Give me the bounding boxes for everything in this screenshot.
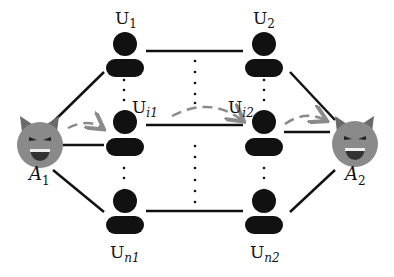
edges <box>53 51 335 212</box>
label-un1: Un1 <box>110 242 140 265</box>
user-icon-u2 <box>245 32 283 77</box>
label-a1: A1 <box>29 163 50 188</box>
edge-u2-a2 <box>290 72 335 120</box>
label-un2: Un2 <box>250 242 280 265</box>
label-ui2: Ui2 <box>228 97 254 120</box>
arrow-ui2-a2 <box>285 116 325 124</box>
label-a2: A2 <box>345 163 366 188</box>
ellipsis-dots <box>123 60 266 204</box>
label-u2: U2 <box>253 8 275 31</box>
edge-a1-u1 <box>53 72 104 122</box>
label-u1: U1 <box>115 8 137 31</box>
user-icon-u1 <box>106 32 144 77</box>
users <box>106 32 283 234</box>
label-ui1: Ui1 <box>132 97 158 120</box>
arrow-a1-ui1 <box>68 123 102 128</box>
user-icon-un1 <box>106 189 144 234</box>
user-icon-un2 <box>245 189 283 234</box>
edge-a1-un1 <box>53 170 104 212</box>
devil-icon-a1 <box>17 116 63 168</box>
edge-un2-a2 <box>290 170 335 212</box>
diagram-canvas <box>0 0 394 277</box>
devil-icon-a2 <box>332 116 378 167</box>
